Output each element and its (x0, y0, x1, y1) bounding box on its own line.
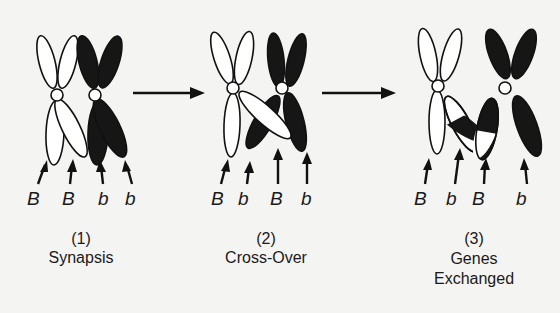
allele-label: B (62, 188, 75, 209)
stage-number: (1) (71, 230, 91, 247)
allele-label: b (301, 188, 312, 209)
allele-label: B (414, 188, 427, 209)
allele-label: b (98, 188, 109, 209)
meiosis-crossover-diagram: B B b b (1) Synapsis (0, 0, 560, 313)
stage-title-line-2: Exchanged (434, 270, 514, 287)
black-chromosome-recombinant (453, 26, 547, 177)
transition-arrow-icon (322, 87, 396, 99)
allele-label: B (270, 188, 283, 209)
stage-number: (2) (256, 230, 276, 247)
stage-number: (3) (464, 230, 484, 247)
transition-arrow-icon (133, 87, 205, 99)
stage-title: Synapsis (49, 249, 114, 266)
allele-label: b (125, 188, 136, 209)
allele-label: B (27, 188, 40, 209)
stage-title: Cross-Over (225, 249, 307, 266)
allele-label: B (211, 188, 224, 209)
allele-label: b (516, 188, 527, 209)
allele-label: b (446, 188, 457, 209)
allele-label: b (238, 188, 249, 209)
stage-title-line-1: Genes (450, 250, 497, 267)
stage-2-cross-over: B b B b (2) Cross-Over (206, 30, 312, 266)
stage-1-synapsis: B B b b (1) Synapsis (27, 34, 136, 266)
stage-3-genes-exchanged: B b B b (3) Genes Exchanged (414, 26, 547, 287)
allele-label: B (472, 188, 485, 209)
